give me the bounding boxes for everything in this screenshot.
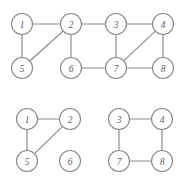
node-label-8: 8	[160, 157, 165, 167]
node-original-graph-5: 5	[12, 58, 33, 79]
node-label-1: 1	[25, 115, 30, 125]
node-component-two-7: 7	[109, 151, 130, 172]
node-original-graph-4: 4	[153, 14, 174, 35]
node-label-6: 6	[69, 64, 74, 74]
node-group-component-two: 3478	[109, 109, 173, 172]
node-component-one-5: 5	[17, 151, 38, 172]
node-original-graph-2: 2	[61, 14, 82, 35]
node-original-graph-6: 6	[61, 58, 82, 79]
edge-2-5	[30, 31, 63, 61]
node-group-original-graph: 12345678	[12, 14, 174, 79]
node-component-one-2: 2	[60, 109, 81, 130]
node-component-two-3: 3	[109, 109, 130, 130]
node-component-one-1: 1	[17, 109, 38, 130]
node-label-2: 2	[69, 20, 74, 30]
node-label-4: 4	[160, 115, 165, 125]
node-component-two-4: 4	[152, 109, 173, 130]
edge-2-5	[35, 126, 63, 153]
node-label-1: 1	[20, 20, 25, 30]
node-label-5: 5	[20, 64, 25, 74]
edge-group-original-graph	[22, 24, 163, 68]
node-label-3: 3	[116, 115, 122, 125]
node-component-one-6: 6	[60, 151, 81, 172]
node-label-6: 6	[68, 157, 73, 167]
node-label-4: 4	[161, 20, 166, 30]
node-label-2: 2	[68, 115, 73, 125]
node-label-8: 8	[161, 64, 166, 74]
node-original-graph-3: 3	[106, 14, 127, 35]
node-component-two-8: 8	[152, 151, 173, 172]
graph-canvas: 1234567812563478	[0, 0, 180, 182]
node-original-graph-7: 7	[106, 58, 127, 79]
graph-figure: 1234567812563478	[0, 0, 180, 182]
node-original-graph-1: 1	[12, 14, 33, 35]
edges-layer	[22, 24, 163, 161]
node-label-5: 5	[25, 157, 30, 167]
node-original-graph-8: 8	[153, 58, 174, 79]
node-label-3: 3	[113, 20, 119, 30]
edge-4-7	[124, 31, 156, 61]
